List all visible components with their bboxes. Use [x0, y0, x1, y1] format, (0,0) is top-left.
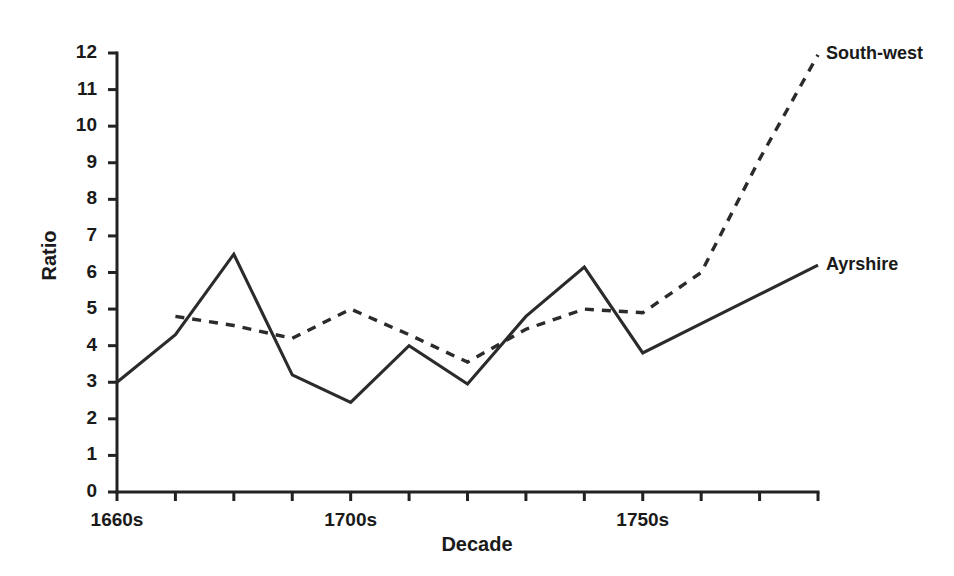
y-tick-label: 9	[37, 151, 97, 173]
y-tick-label: 0	[37, 480, 97, 502]
x-tick-label: 1750s	[583, 509, 703, 531]
x-axis-title: Decade	[0, 533, 954, 556]
y-tick-label: 11	[37, 78, 97, 100]
series-label-south-west: South-west	[826, 43, 923, 64]
series-label-ayrshire: Ayrshire	[826, 254, 898, 275]
chart-plot-area	[0, 0, 954, 576]
y-tick-label: 10	[37, 114, 97, 136]
data-series-group	[117, 55, 818, 403]
y-tick-label: 5	[37, 297, 97, 319]
x-tick-label: 1660s	[57, 509, 177, 531]
y-tick-label: 1	[37, 443, 97, 465]
y-tick-label: 2	[37, 407, 97, 429]
tick-marks-group	[108, 53, 818, 501]
y-tick-label: 3	[37, 370, 97, 392]
y-tick-label: 8	[37, 187, 97, 209]
y-tick-label: 4	[37, 334, 97, 356]
series-line-ayrshire	[117, 254, 818, 402]
y-tick-label: 12	[37, 41, 97, 63]
x-tick-label: 1700s	[291, 509, 411, 531]
chart-container: 0123456789101112 1660s1700s1750s Ratio D…	[0, 0, 954, 576]
series-line-south-west	[175, 55, 818, 362]
y-axis-title: Ratio	[38, 231, 61, 281]
